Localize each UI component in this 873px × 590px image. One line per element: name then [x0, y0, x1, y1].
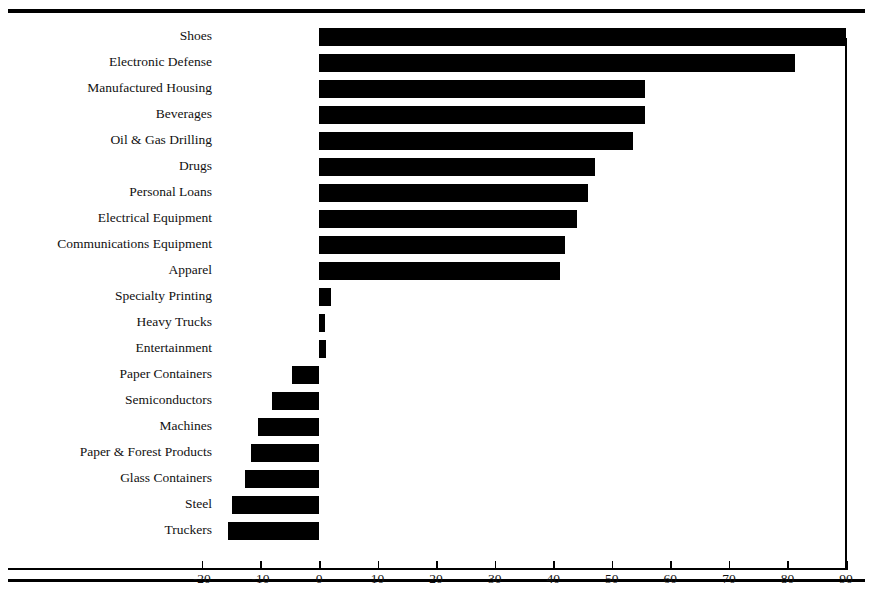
x-tick-mark	[319, 561, 321, 570]
bar-row: Manufactured Housing	[0, 76, 873, 102]
x-tick-mark	[787, 561, 789, 570]
bar-row: Drugs	[0, 154, 873, 180]
bar-row: Paper Containers	[0, 362, 873, 388]
x-tick-label: 10	[358, 572, 398, 586]
x-tick-label: 20	[416, 572, 456, 586]
bar	[232, 496, 319, 514]
bar-row: Shoes	[0, 24, 873, 50]
bar-row: Heavy Trucks	[0, 310, 873, 336]
chart-figure: ShoesElectronic DefenseManufactured Hous…	[0, 0, 873, 590]
x-tick-mark	[378, 561, 380, 570]
bar	[292, 366, 319, 384]
bar-row: Steel	[0, 492, 873, 518]
category-label: Electrical Equipment	[0, 211, 212, 225]
x-tick-label: 60	[650, 572, 690, 586]
bar-row: Entertainment	[0, 336, 873, 362]
bar-row: Oil & Gas Drilling	[0, 128, 873, 154]
category-label: Specialty Printing	[0, 289, 212, 303]
category-label: Machines	[0, 419, 212, 433]
bar	[319, 28, 846, 46]
x-tick-mark	[729, 561, 731, 570]
x-tick-mark	[553, 561, 555, 570]
x-tick-label: -10	[240, 572, 280, 586]
bar	[319, 288, 331, 306]
category-label: Apparel	[0, 263, 212, 277]
bar	[319, 106, 645, 124]
bar	[228, 522, 319, 540]
category-label: Personal Loans	[0, 185, 212, 199]
category-label: Beverages	[0, 107, 212, 121]
bar-row: Semiconductors	[0, 388, 873, 414]
bar	[272, 392, 319, 410]
category-label: Shoes	[0, 29, 212, 43]
category-label: Heavy Trucks	[0, 315, 212, 329]
bar	[319, 158, 595, 176]
category-label: Glass Containers	[0, 471, 212, 485]
bar-row: Electronic Defense	[0, 50, 873, 76]
category-label: Oil & Gas Drilling	[0, 133, 212, 147]
x-axis-line	[8, 568, 846, 570]
bar-row: Truckers	[0, 518, 873, 544]
bar	[319, 184, 588, 202]
x-tick-mark	[846, 561, 848, 570]
bar-row: Beverages	[0, 102, 873, 128]
category-label: Steel	[0, 497, 212, 511]
x-tick-label: 40	[533, 572, 573, 586]
x-tick-mark	[202, 561, 204, 570]
category-label: Semiconductors	[0, 393, 212, 407]
bar	[319, 132, 633, 150]
category-label: Manufactured Housing	[0, 81, 212, 95]
bar-row: Paper & Forest Products	[0, 440, 873, 466]
category-label: Electronic Defense	[0, 55, 212, 69]
top-rule	[8, 9, 865, 13]
bar	[319, 54, 795, 72]
bar	[258, 418, 319, 436]
x-tick-label: 0	[299, 572, 339, 586]
bar-row: Personal Loans	[0, 180, 873, 206]
x-tick-mark	[436, 561, 438, 570]
x-tick-mark	[260, 561, 262, 570]
bar-row: Apparel	[0, 258, 873, 284]
x-tick-label: 50	[592, 572, 632, 586]
category-label: Communications Equipment	[0, 237, 212, 251]
bar	[319, 314, 325, 332]
x-tick-mark	[670, 561, 672, 570]
x-tick-mark	[495, 561, 497, 570]
bar	[319, 340, 326, 358]
bar	[251, 444, 319, 462]
bar	[245, 470, 319, 488]
bar-row: Glass Containers	[0, 466, 873, 492]
bar	[319, 210, 577, 228]
x-tick-mark	[612, 561, 614, 570]
axis-right-spine	[845, 38, 847, 570]
category-label: Entertainment	[0, 341, 212, 355]
bar-row: Electrical Equipment	[0, 206, 873, 232]
bar-row: Communications Equipment	[0, 232, 873, 258]
bar-row: Machines	[0, 414, 873, 440]
category-label: Paper Containers	[0, 367, 212, 381]
x-tick-label: -20	[182, 572, 222, 586]
x-tick-label: 90	[826, 572, 866, 586]
category-label: Paper & Forest Products	[0, 445, 212, 459]
x-tick-label: 80	[767, 572, 807, 586]
category-label: Drugs	[0, 159, 212, 173]
bar	[319, 80, 645, 98]
x-tick-label: 70	[709, 572, 749, 586]
bar	[319, 262, 560, 280]
bar-row: Specialty Printing	[0, 284, 873, 310]
plot-area: ShoesElectronic DefenseManufactured Hous…	[0, 18, 873, 552]
x-tick-label: 30	[475, 572, 515, 586]
category-label: Truckers	[0, 523, 212, 537]
bar	[319, 236, 565, 254]
